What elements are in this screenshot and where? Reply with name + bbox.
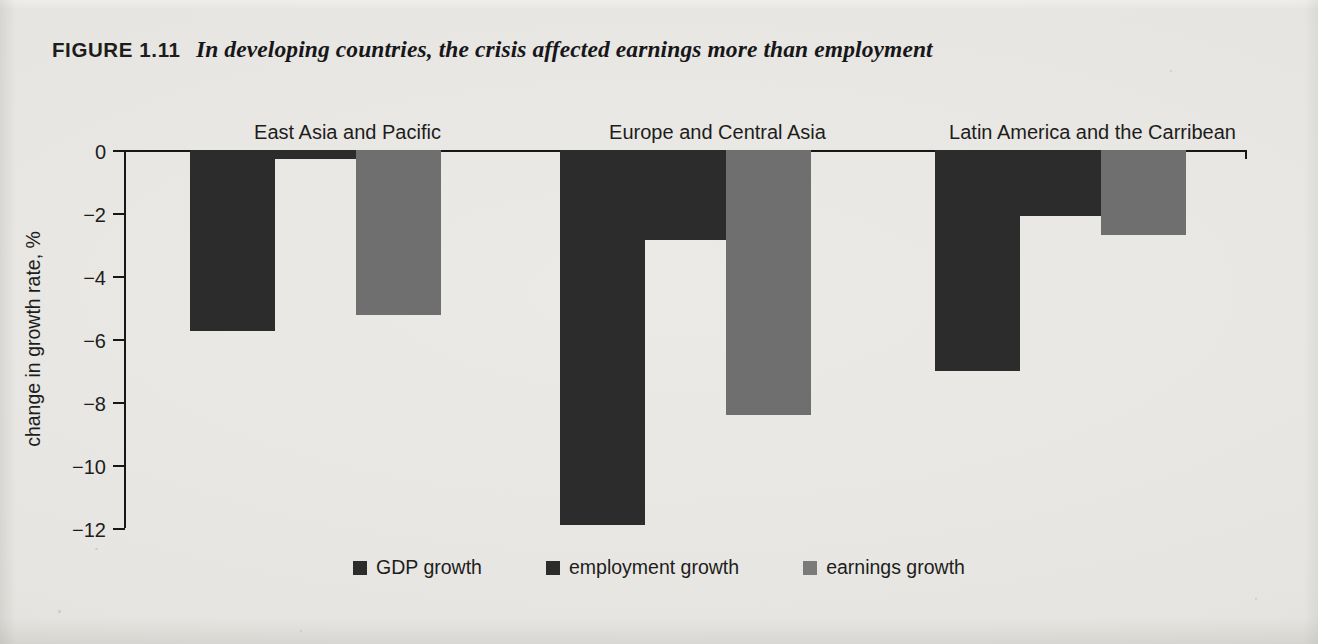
bar-earn (726, 150, 811, 415)
y-axis-tick: −12 (113, 528, 125, 530)
figure-caption: In developing countries, the crisis affe… (196, 36, 933, 62)
legend-item: GDP growth (353, 556, 482, 579)
bar-group-label: Europe and Central Asia (609, 121, 826, 144)
bar-group-label: East Asia and Pacific (254, 121, 441, 144)
paper-speck (300, 630, 302, 632)
y-axis-label: change in growth rate, % (22, 231, 45, 447)
y-axis-tick: −6 (113, 339, 125, 341)
bar-group: Latin America and the Carribean (935, 150, 1250, 528)
bar-group: Europe and Central Asia (560, 150, 875, 528)
paper-speck (95, 548, 98, 550)
bar-emp (1018, 150, 1103, 216)
y-axis-tick-label: −12 (72, 519, 106, 542)
bar-emp (273, 150, 358, 159)
chart-plot-area: 0−2−4−6−8−10−12 East Asia and PacificEur… (125, 150, 1247, 528)
y-axis-tick-label: −2 (83, 204, 106, 227)
bar-emp (643, 150, 728, 240)
y-axis-tick-label: 0 (95, 141, 106, 164)
y-axis-tick: −4 (113, 276, 125, 278)
legend-item: employment growth (546, 556, 739, 579)
y-axis-tick-label: −4 (83, 267, 106, 290)
y-axis-tick: 0 (113, 150, 125, 152)
legend-item: earnings growth (803, 556, 965, 579)
legend-swatch-emp (546, 561, 560, 575)
legend-swatch-earn (803, 561, 817, 575)
y-axis-tick-label: −6 (83, 330, 106, 353)
paper-speck (1255, 598, 1257, 600)
y-axis-tick-label: −10 (72, 456, 106, 479)
bar-gdp (935, 150, 1020, 371)
paper-speck (58, 610, 61, 613)
figure-title: FIGURE 1.11 In developing countries, the… (52, 36, 933, 63)
y-axis-tick: −10 (113, 465, 125, 467)
y-axis-tick: −8 (113, 402, 125, 404)
legend-label: employment growth (569, 556, 739, 579)
bar-earn (1101, 150, 1186, 235)
figure-number: FIGURE 1.11 (52, 38, 181, 61)
y-axis-tick-label: −8 (83, 393, 106, 416)
bar-group: East Asia and Pacific (190, 150, 505, 528)
y-axis-tick: −2 (113, 213, 125, 215)
bar-gdp (560, 150, 645, 525)
bar-gdp (190, 150, 275, 331)
legend-swatch-gdp (353, 561, 367, 575)
bar-earn (356, 150, 441, 315)
bar-group-label: Latin America and the Carribean (949, 121, 1236, 144)
legend-label: GDP growth (376, 556, 482, 579)
paper-speck (1170, 70, 1172, 72)
legend-label: earnings growth (826, 556, 965, 579)
chart-legend: GDP growthemployment growthearnings grow… (0, 556, 1318, 579)
